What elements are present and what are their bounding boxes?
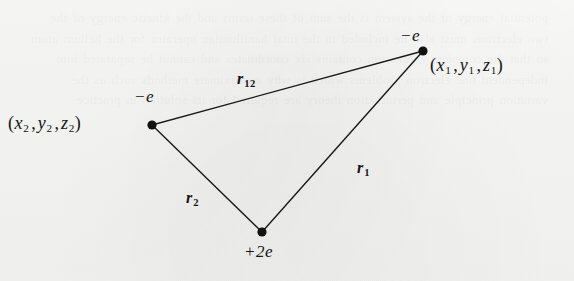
- distance-subscript: 1: [363, 167, 370, 178]
- charge-label-electron-1: −e: [400, 27, 420, 44]
- distance-subscript: 12: [243, 78, 256, 89]
- coord-separator-2: ,: [475, 55, 483, 75]
- line-r1: [262, 51, 423, 232]
- coord-y-subscript: 2: [46, 122, 52, 134]
- coord-y-subscript: 1: [468, 64, 474, 76]
- coordinate-label-electron-1: (x1,y1,z1): [430, 56, 503, 76]
- helium-atom-diagram: potential energy of the system is the su…: [0, 0, 574, 281]
- charge-label-electron-2: −e: [134, 88, 154, 105]
- vertex-dot-electron-2: [147, 120, 156, 129]
- coord-separator-1: ,: [29, 113, 37, 133]
- coord-close-paren: ): [75, 113, 81, 133]
- vertex-dot-electron-1: [418, 46, 427, 55]
- coord-separator-1: ,: [451, 55, 459, 75]
- line-r12: [152, 51, 423, 125]
- vertex-dot-nucleus: [257, 227, 266, 236]
- distance-subscript: 2: [192, 197, 199, 208]
- coordinate-label-electron-2: (x2,y2,z2): [8, 114, 81, 134]
- coord-separator-2: ,: [53, 113, 61, 133]
- coord-close-paren: ): [497, 55, 503, 75]
- coord-x: x: [436, 55, 444, 75]
- coord-x: x: [14, 113, 22, 133]
- distance-label-r1: r1: [357, 160, 370, 179]
- coord-y: y: [460, 55, 468, 75]
- line-r2: [152, 125, 262, 232]
- triangle-graphic: [0, 0, 574, 281]
- charge-label-nucleus: +2e: [244, 243, 273, 260]
- distance-label-r12: r12: [237, 71, 256, 90]
- coord-y: y: [38, 113, 46, 133]
- distance-label-r2: r2: [186, 190, 199, 209]
